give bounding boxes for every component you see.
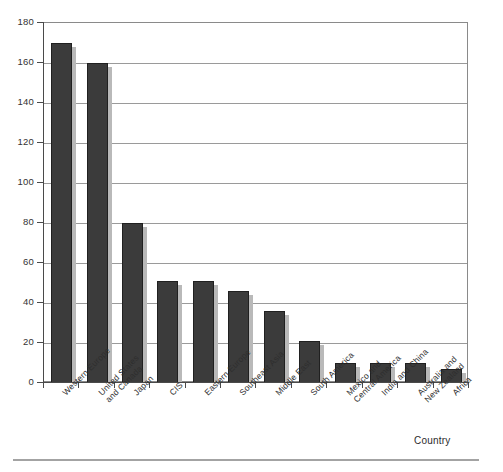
y-tick-label: 160 [0, 57, 34, 67]
y-tick [37, 22, 44, 23]
plot-area [43, 22, 468, 382]
bottom-divider [13, 459, 479, 461]
y-tick [37, 222, 44, 223]
bar [193, 281, 214, 383]
y-tick-label: 0 [0, 377, 34, 387]
bar [51, 43, 72, 383]
y-tick-label: 80 [0, 217, 34, 227]
y-axis-line [43, 22, 44, 383]
y-tick-label: 60 [0, 257, 34, 267]
y-tick [37, 262, 44, 263]
x-tick [43, 383, 44, 388]
bar [157, 281, 178, 383]
x-axis-title: Country [414, 435, 450, 446]
y-tick [37, 302, 44, 303]
y-tick [37, 142, 44, 143]
y-tick [37, 182, 44, 183]
x-tick-label: CIS [168, 381, 185, 398]
bar-chart: 020406080100120140160180 Western EuropeU… [0, 0, 503, 472]
y-tick-label: 20 [0, 337, 34, 347]
y-tick [37, 62, 44, 63]
bar [87, 63, 108, 383]
y-tick-label: 180 [0, 17, 34, 27]
y-tick [37, 342, 44, 343]
y-tick-label: 140 [0, 97, 34, 107]
y-tick-label: 100 [0, 177, 34, 187]
y-tick-label: 40 [0, 297, 34, 307]
y-tick-label: 120 [0, 137, 34, 147]
y-tick [37, 102, 44, 103]
